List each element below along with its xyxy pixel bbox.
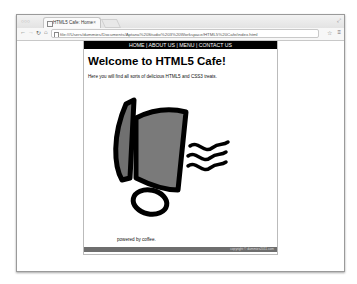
new-tab-button[interactable]	[101, 19, 121, 28]
page-icon	[47, 21, 53, 27]
back-icon[interactable]: ←	[20, 29, 26, 35]
page-icon	[54, 32, 59, 38]
coffee-cup-image	[112, 96, 242, 236]
page-container: HOME | ABOUT US | MENU | CONTACT US Welc…	[83, 41, 278, 255]
nav-home[interactable]: HOME	[129, 42, 145, 48]
powered-by-text: powered by coffee.	[117, 237, 156, 242]
browser-toolbar: ← → ↻ ⌂ file:///Users/dummies/Documents/…	[17, 28, 344, 41]
address-bar[interactable]: file:///Users/dummies/Documents/Aptana%2…	[51, 29, 319, 38]
page-viewport: HOME | ABOUT US | MENU | CONTACT US Welc…	[17, 41, 344, 271]
page-title: Welcome to HTML5 Cafe!	[88, 55, 277, 67]
home-icon[interactable]: ⌂	[44, 29, 48, 35]
nav-menu[interactable]: MENU	[179, 42, 194, 48]
fullscreen-icon[interactable]: ⤢	[337, 17, 341, 24]
reload-icon[interactable]: ↻	[36, 29, 41, 36]
tab-title: HTML5 Cafe: Home	[53, 20, 93, 25]
tab-html5-cafe-home[interactable]: HTML5 Cafe: Home ×	[43, 17, 101, 28]
menu-icon[interactable]: ≡	[337, 29, 341, 35]
address-text: file:///Users/dummies/Documents/Aptana%2…	[60, 32, 258, 37]
top-nav: HOME | ABOUT US | MENU | CONTACT US	[84, 41, 277, 49]
nav-about-us[interactable]: ABOUT US	[149, 42, 175, 48]
intro-text: Here you will find all sorts of deliciou…	[88, 74, 277, 79]
title-bar: ○○○ HTML5 Cafe: Home × ⤢	[17, 15, 344, 28]
close-tab-icon[interactable]: ×	[93, 18, 96, 28]
footer-copyright: copyright © dummies2011.com	[84, 247, 277, 252]
forward-icon[interactable]: →	[28, 29, 34, 35]
window-controls[interactable]: ○○○	[21, 18, 30, 24]
browser-window: ○○○ HTML5 Cafe: Home × ⤢ ← → ↻ ⌂ file://…	[16, 14, 345, 272]
bookmark-star-icon[interactable]: ☆	[327, 29, 332, 36]
nav-contact-us[interactable]: CONTACT US	[199, 42, 232, 48]
